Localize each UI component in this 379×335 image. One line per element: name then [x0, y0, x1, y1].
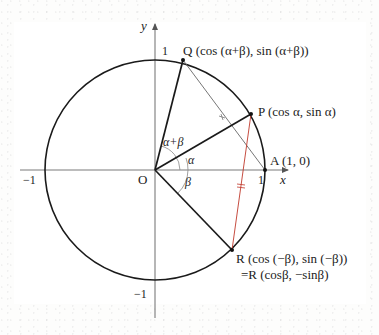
- unit-circle-diagram: y x O 1 −1 1 −1 α+β α β Q (cos (α+β), si…: [0, 0, 379, 335]
- angle-label-alpha-plus-beta: α+β: [163, 135, 183, 149]
- radius-or: [155, 170, 232, 250]
- tick-y-pos: 1: [162, 44, 168, 58]
- label-p: P (cos α, sin α): [258, 104, 336, 119]
- radius-oq: [155, 60, 183, 170]
- tick-y-neg: −1: [134, 287, 147, 301]
- origin-label: O: [138, 172, 147, 187]
- angle-label-alpha: α: [188, 153, 195, 167]
- angle-label-beta: β: [184, 175, 191, 189]
- point-r: [230, 248, 234, 252]
- y-axis-label: y: [139, 18, 147, 33]
- label-r-line2: =R (cosβ, −sinβ): [241, 267, 328, 282]
- point-q: [181, 58, 185, 62]
- tick-x-neg: −1: [23, 173, 36, 187]
- point-a: [263, 168, 267, 172]
- label-q: Q (cos (α+β), sin (α+β)): [183, 43, 309, 58]
- label-a: A (1, 0): [270, 153, 310, 168]
- tick-x-pos: 1: [258, 173, 264, 187]
- x-axis-label: x: [279, 172, 286, 187]
- label-r-line1: R (cos (−β), sin (−β)): [236, 251, 347, 266]
- point-p: [249, 112, 253, 116]
